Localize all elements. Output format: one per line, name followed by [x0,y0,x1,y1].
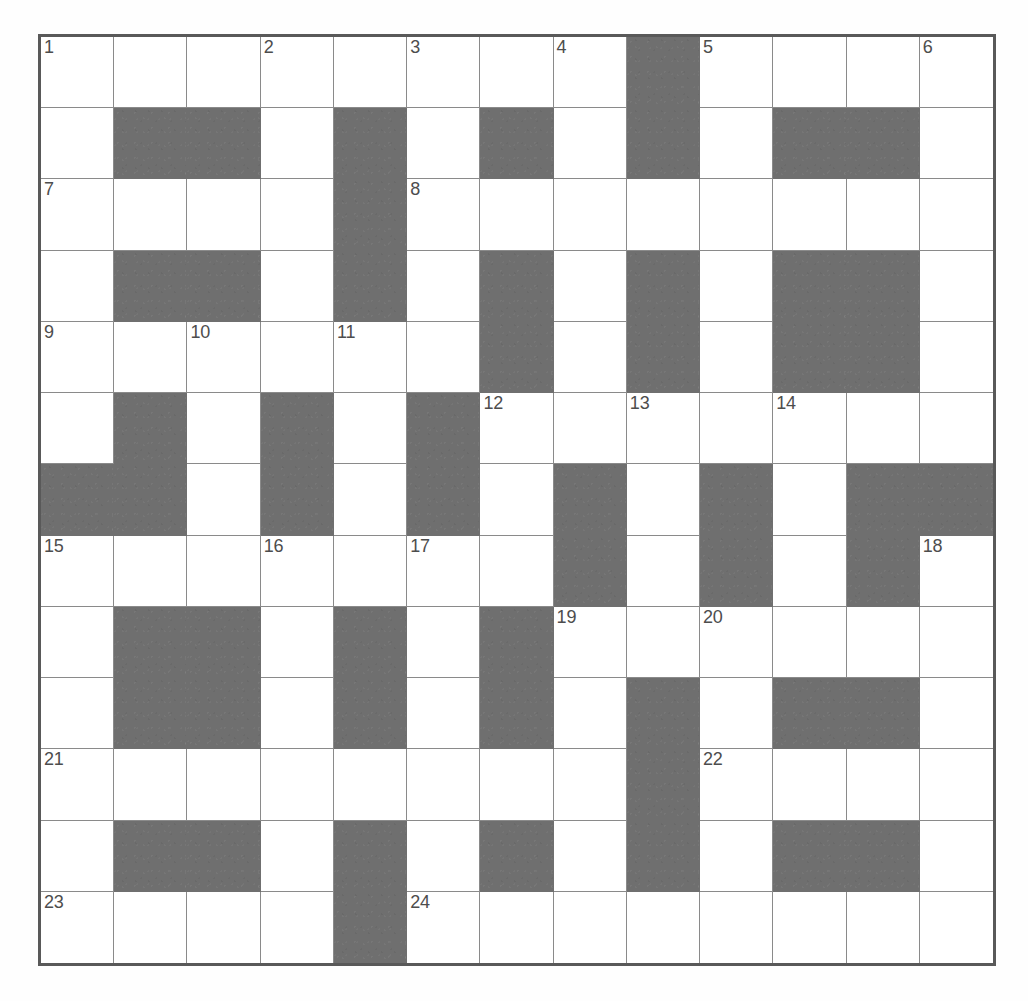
crossword-cell[interactable] [920,179,993,250]
crossword-cell[interactable] [114,37,187,108]
crossword-cell[interactable]: 16 [261,536,334,607]
crossword-cell[interactable] [480,179,553,250]
crossword-cell[interactable]: 17 [407,536,480,607]
crossword-cell[interactable] [920,749,993,820]
crossword-cell[interactable]: 7 [41,179,114,250]
crossword-cell[interactable] [700,251,773,322]
crossword-cell[interactable]: 8 [407,179,480,250]
crossword-cell[interactable] [847,37,920,108]
crossword-cell[interactable] [187,464,260,535]
crossword-cell[interactable] [773,892,846,963]
crossword-cell[interactable] [334,749,407,820]
crossword-cell[interactable] [700,821,773,892]
crossword-cell[interactable] [114,892,187,963]
crossword-cell[interactable] [114,536,187,607]
crossword-cell[interactable] [480,536,553,607]
crossword-cell[interactable] [480,37,553,108]
crossword-cell[interactable]: 10 [187,322,260,393]
crossword-cell[interactable] [554,892,627,963]
crossword-cell[interactable] [773,37,846,108]
crossword-cell[interactable] [407,607,480,678]
crossword-cell[interactable] [41,108,114,179]
crossword-cell[interactable] [847,393,920,464]
crossword-cell[interactable]: 5 [700,37,773,108]
crossword-cell[interactable]: 19 [554,607,627,678]
crossword-cell[interactable] [261,607,334,678]
crossword-cell[interactable] [627,892,700,963]
crossword-cell[interactable] [41,393,114,464]
crossword-cell[interactable] [114,179,187,250]
crossword-cell[interactable] [920,821,993,892]
crossword-cell[interactable]: 9 [41,322,114,393]
crossword-cell[interactable] [700,678,773,749]
crossword-cell[interactable] [334,536,407,607]
crossword-cell[interactable] [334,37,407,108]
crossword-cell[interactable] [627,179,700,250]
crossword-cell[interactable]: 21 [41,749,114,820]
crossword-cell[interactable] [407,108,480,179]
crossword-cell[interactable] [554,322,627,393]
crossword-cell[interactable] [847,749,920,820]
crossword-cell[interactable] [554,393,627,464]
crossword-cell[interactable] [920,322,993,393]
crossword-cell[interactable] [407,678,480,749]
crossword-cell[interactable] [261,821,334,892]
crossword-cell[interactable]: 18 [920,536,993,607]
crossword-cell[interactable] [773,179,846,250]
crossword-cell[interactable] [261,322,334,393]
crossword-cell[interactable]: 2 [261,37,334,108]
crossword-cell[interactable] [920,251,993,322]
crossword-cell[interactable] [480,892,553,963]
crossword-cell[interactable] [334,393,407,464]
crossword-cell[interactable] [261,179,334,250]
crossword-cell[interactable] [627,464,700,535]
crossword-cell[interactable]: 3 [407,37,480,108]
crossword-cell[interactable] [261,892,334,963]
crossword-cell[interactable]: 22 [700,749,773,820]
crossword-cell[interactable] [261,108,334,179]
crossword-cell[interactable] [41,251,114,322]
crossword-cell[interactable] [187,37,260,108]
crossword-cell[interactable]: 1 [41,37,114,108]
crossword-cell[interactable] [41,821,114,892]
crossword-cell[interactable]: 11 [334,322,407,393]
crossword-cell[interactable] [114,749,187,820]
crossword-cell[interactable]: 24 [407,892,480,963]
crossword-cell[interactable]: 23 [41,892,114,963]
crossword-cell[interactable]: 14 [773,393,846,464]
crossword-cell[interactable] [187,393,260,464]
crossword-cell[interactable] [773,607,846,678]
crossword-cell[interactable] [187,749,260,820]
crossword-cell[interactable] [187,892,260,963]
crossword-cell[interactable]: 12 [480,393,553,464]
crossword-cell[interactable] [261,749,334,820]
crossword-cell[interactable] [554,251,627,322]
crossword-cell[interactable] [41,678,114,749]
crossword-cell[interactable] [407,322,480,393]
crossword-cell[interactable] [261,251,334,322]
crossword-cell[interactable] [920,892,993,963]
crossword-cell[interactable] [700,179,773,250]
crossword-cell[interactable] [407,821,480,892]
crossword-cell[interactable] [773,749,846,820]
crossword-grid[interactable]: 123456789101112131415161718192021222324 [38,34,996,966]
crossword-cell[interactable] [407,749,480,820]
crossword-cell[interactable] [480,464,553,535]
crossword-cell[interactable] [187,536,260,607]
crossword-cell[interactable] [700,892,773,963]
crossword-cell[interactable] [187,179,260,250]
crossword-cell[interactable] [700,108,773,179]
crossword-cell[interactable]: 4 [554,37,627,108]
crossword-cell[interactable] [920,108,993,179]
crossword-cell[interactable] [480,749,553,820]
crossword-cell[interactable] [407,251,480,322]
crossword-cell[interactable] [554,678,627,749]
crossword-cell[interactable] [700,393,773,464]
crossword-cell[interactable]: 13 [627,393,700,464]
crossword-cell[interactable] [627,607,700,678]
crossword-cell[interactable]: 6 [920,37,993,108]
crossword-cell[interactable] [41,607,114,678]
crossword-cell[interactable] [554,108,627,179]
crossword-cell[interactable] [627,536,700,607]
crossword-cell[interactable] [554,179,627,250]
